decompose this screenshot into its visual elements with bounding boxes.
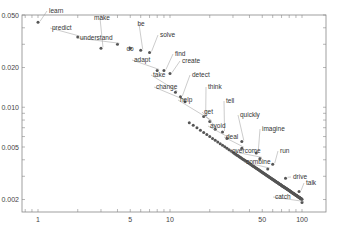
label-change: change xyxy=(156,83,178,91)
label-think: think xyxy=(208,83,222,90)
label-be: be xyxy=(137,20,145,27)
y-tick-label: 0.050 xyxy=(1,12,19,19)
point-create xyxy=(169,72,172,75)
label-find: find xyxy=(175,50,186,57)
plot-frame xyxy=(22,15,326,212)
label-predict: predict xyxy=(52,24,72,32)
point-be xyxy=(139,49,142,52)
point-solve xyxy=(148,51,151,54)
log-log-scatter-chart: 151050100 0.0500.0200.0100.0050.002 lear… xyxy=(0,0,347,238)
label-avoid: avoid xyxy=(210,122,226,129)
label-learn: learn xyxy=(49,7,64,14)
label-quickly: quickly xyxy=(240,111,261,119)
label-create: create xyxy=(182,57,200,64)
label-catch: catch xyxy=(275,193,291,200)
point-learn xyxy=(37,21,40,24)
y-tick-label: 0.020 xyxy=(1,64,19,71)
label-understand: understand xyxy=(80,34,113,41)
x-tick-label: 50 xyxy=(258,216,266,223)
data-points xyxy=(37,21,304,204)
x-tick-label: 5 xyxy=(128,216,132,223)
x-tick-label: 100 xyxy=(296,216,308,223)
y-tick-label: 0.005 xyxy=(1,144,19,151)
point-talk xyxy=(298,190,301,193)
x-tick-label: 10 xyxy=(166,216,174,223)
y-tick-label: 0.010 xyxy=(1,104,19,111)
label-combine: combine xyxy=(246,158,271,165)
y-tick-label: 0.002 xyxy=(1,196,19,203)
label-tell: tell xyxy=(226,97,235,104)
label-adapt: adapt xyxy=(134,56,150,64)
word-labels: learnpredictmakeunderstanddobesolveadapt… xyxy=(40,7,317,201)
x-axis: 151050100 xyxy=(25,15,308,223)
point-tell xyxy=(221,130,224,133)
label-deal: deal xyxy=(226,133,239,140)
label-run: run xyxy=(280,147,290,154)
label-detect: detect xyxy=(192,71,210,78)
x-tick-label: 1 xyxy=(36,216,40,223)
point-run xyxy=(271,163,274,166)
label-talk: talk xyxy=(306,179,317,186)
label-solve: solve xyxy=(160,31,176,38)
y-axis: 0.0500.0200.0100.0050.002 xyxy=(1,12,326,204)
point-quickly xyxy=(240,140,243,143)
label-do: do xyxy=(126,45,134,52)
label-make: make xyxy=(94,14,110,21)
label-overcome: overcome xyxy=(232,147,261,154)
label-imagine: imagine xyxy=(262,125,285,133)
point-make xyxy=(99,47,102,50)
label-take: take xyxy=(153,71,166,78)
point-take xyxy=(174,91,177,94)
point-drive xyxy=(284,177,287,180)
label-get: get xyxy=(204,108,213,116)
label-help: help xyxy=(180,96,193,104)
